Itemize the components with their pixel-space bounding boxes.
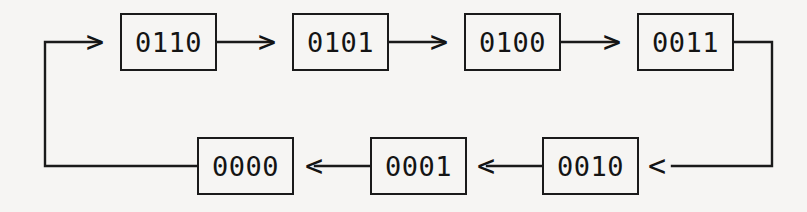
arrow-head-s3-s4: < — [648, 151, 666, 181]
arrow-head-s1-s2: > — [430, 27, 448, 57]
arrow-head-s6-s0: > — [86, 27, 104, 57]
arrow-head-s0-s1: > — [258, 27, 276, 57]
state-label: 0010 — [557, 153, 624, 180]
state-label: 0000 — [212, 153, 279, 180]
arrow-head-s4-s5: < — [477, 151, 495, 181]
arrow-head-s5-s6: < — [305, 151, 323, 181]
state-label: 0001 — [385, 153, 452, 180]
state-node-0000[interactable]: 0000 — [197, 137, 294, 195]
diagram-canvas: > > > > < < < 0110 0101 0100 0011 0010 0… — [0, 0, 807, 212]
state-node-0010[interactable]: 0010 — [542, 137, 639, 195]
state-label: 0110 — [135, 29, 202, 56]
arrow-head-s2-s3: > — [603, 27, 621, 57]
state-node-0011[interactable]: 0011 — [637, 13, 734, 71]
state-node-0110[interactable]: 0110 — [120, 13, 217, 71]
state-label: 0101 — [307, 29, 374, 56]
state-node-0100[interactable]: 0100 — [464, 13, 561, 71]
state-node-0101[interactable]: 0101 — [292, 13, 389, 71]
state-label: 0100 — [479, 29, 546, 56]
state-node-0001[interactable]: 0001 — [370, 137, 467, 195]
state-label: 0011 — [652, 29, 719, 56]
